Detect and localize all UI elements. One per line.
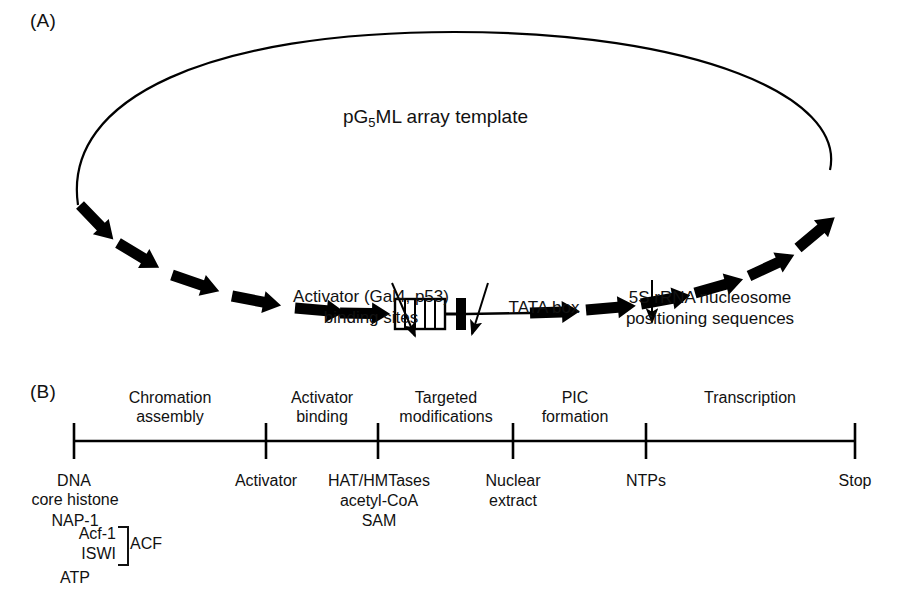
- reagent-core-histone: core histone: [20, 490, 130, 510]
- reagent-atp: ATP: [32, 568, 118, 588]
- timepoint-label-dna: DNA: [36, 471, 112, 491]
- timepoint-label-nuclear-extract: Nuclear extract: [463, 471, 563, 511]
- reagent-iswi: ISWI: [54, 544, 116, 564]
- activator-binding-sites-label: Activator (Gal4, p53) binding sites: [258, 286, 484, 328]
- panel-b-label: (B): [30, 381, 56, 403]
- timepoint-label-ntps: NTPs: [606, 471, 686, 491]
- timepoint-label-activator: Activator: [208, 471, 324, 491]
- reagent-acf-complex: ACF: [130, 534, 162, 554]
- figure-root: (A): [0, 0, 906, 601]
- rrna-positioning-label: 5S rRNA nucleosome positioning sequences: [592, 287, 828, 329]
- stage-label-activator-binding: Activator binding: [252, 388, 392, 426]
- plasmid-title-subscript: 5: [368, 115, 375, 130]
- plasmid-title-suffix: ML array template: [376, 106, 528, 127]
- plasmid-title-prefix: pG: [343, 106, 368, 127]
- stage-label-chromatin-assembly: Chromation assembly: [100, 388, 240, 426]
- stage-label-pic-formation: PIC formation: [510, 388, 640, 426]
- acf-subunits: Acf-1 ISWI: [54, 524, 116, 564]
- tata-box-label: TATA box: [492, 297, 596, 318]
- panel-a: (A): [0, 0, 906, 360]
- stage-label-transcription: Transcription: [680, 388, 820, 407]
- acf-bracket: [118, 526, 129, 566]
- stage-label-targeted-modifications: Targeted modifications: [376, 388, 516, 426]
- timepoint-label-stop: Stop: [819, 471, 891, 491]
- reagent-acf1: Acf-1: [54, 524, 116, 544]
- timepoint-label-hat-hmtases: HAT/HMTases acetyl-CoA SAM: [312, 471, 446, 531]
- plasmid-title: pG5ML array template: [343, 106, 528, 129]
